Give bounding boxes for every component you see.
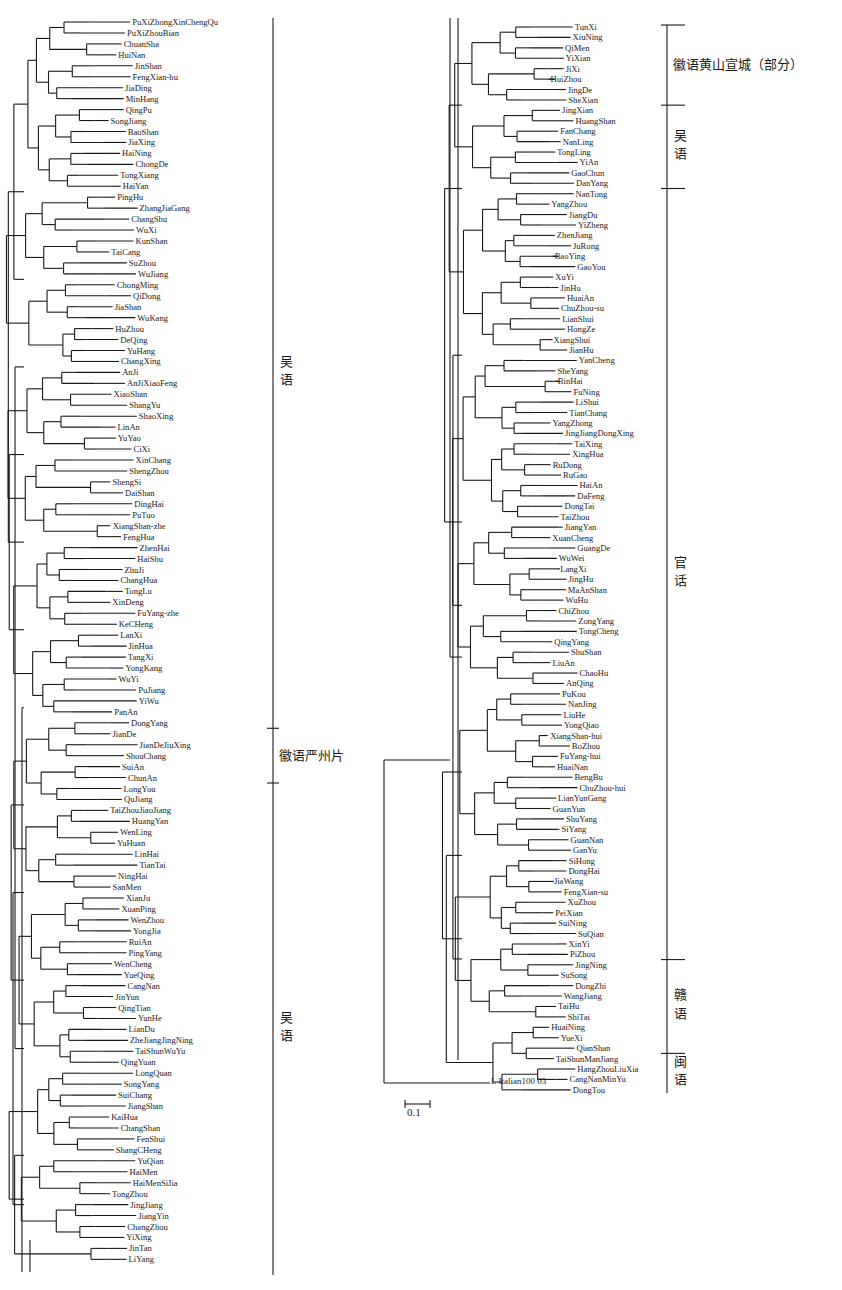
leaf-label: TongXiang: [120, 170, 159, 180]
scale-bar-label: 0.1: [407, 1106, 421, 1118]
leaf-label: YongJia: [133, 926, 161, 936]
leaf-label: SanMen: [113, 882, 142, 892]
leaf-label: HaiAn: [580, 480, 604, 490]
leaf-label: FenShui: [136, 1134, 165, 1144]
leaf-label: GuangDe: [577, 543, 610, 553]
leaf-label: YangZhong: [552, 418, 593, 428]
leaf-label: JiaXing: [128, 137, 155, 147]
leaf-label: HuaiNan: [557, 762, 589, 772]
leaf-label: SuZhou: [129, 258, 157, 268]
leaf-label: QingTian: [118, 1003, 151, 1013]
leaf-label: SuiAn: [122, 762, 145, 772]
clade-group-label: 吴语: [279, 1009, 293, 1045]
leaf-label: YiWu: [139, 696, 160, 706]
leaf-label: LianShui: [562, 314, 594, 324]
leaf-label: YuHang: [127, 346, 156, 356]
leaf-label: DeQing: [120, 335, 148, 345]
leaf-label: JianHu: [569, 345, 594, 355]
leaf-label: JingDe: [568, 85, 593, 95]
leaf-label: LianDu: [129, 1024, 156, 1034]
leaf-label: DongHai: [568, 866, 600, 876]
leaf-label: KeCHeng: [119, 619, 154, 629]
leaf-label: XiangShui: [553, 335, 590, 345]
leaf-label: GuanNan: [570, 835, 604, 845]
leaf-label: HuZhou: [115, 324, 144, 334]
leaf-label: JiaDing: [125, 83, 152, 93]
leaf-label: ShangCHeng: [116, 1145, 163, 1155]
leaf-label: LianYunGang: [558, 793, 607, 803]
leaf-label: XinYi: [569, 939, 591, 949]
leaf-label: KaiHua: [111, 1112, 138, 1122]
leaf-label: ShuShan: [571, 647, 602, 657]
leaf-label: TaiZhou: [561, 512, 591, 522]
leaf-label: YiXian: [566, 53, 592, 63]
leaf-label: XiaoShan: [113, 389, 148, 399]
leaf-label: HuangYan: [132, 816, 169, 826]
leaf-label: HangZhouLiuXia: [577, 1064, 638, 1074]
left-tree-leaf-labels: PuXiZhongXinChengQuPuXiZhouBianChuanShaH…: [110, 17, 219, 1264]
leaf-label: FengXian-hu: [133, 72, 179, 82]
left-tree-branches: [6, 22, 137, 1272]
leaf-label: SuiChang: [118, 1090, 153, 1100]
leaf-label: WuYi: [119, 674, 140, 684]
leaf-label: ChongDe: [135, 159, 168, 169]
leaf-label: TianChang: [569, 408, 608, 418]
leaf-label: ShaoXing: [139, 411, 174, 421]
leaf-label: SuQian: [578, 929, 604, 939]
leaf-label: DanYang: [576, 178, 609, 188]
leaf-label: DaFeng: [577, 491, 605, 501]
leaf-label: XuanPing: [121, 904, 156, 914]
leaf-label: TongCheng: [579, 626, 620, 636]
leaf-label: PeiXian: [555, 908, 583, 918]
leaf-label: ShangYu: [129, 400, 161, 410]
leaf-label: XiangShan-zhe: [113, 521, 166, 531]
leaf-label: QingPu: [126, 105, 153, 115]
leaf-label: SongJiang: [111, 116, 148, 126]
leaf-label: FuYang-hui: [560, 751, 601, 761]
leaf-label: LongYou: [123, 784, 156, 794]
leaf-label: ChunAn: [128, 773, 158, 783]
leaf-label: AnQing: [566, 678, 594, 688]
leaf-label: PingHu: [117, 192, 144, 202]
leaf-label: TaiCang: [111, 247, 141, 257]
leaf-label: SiHong: [569, 856, 596, 866]
leaf-label: HuangShan: [575, 116, 616, 126]
leaf-label: JiaShan: [115, 302, 142, 312]
leaf-label: HaiShu: [137, 554, 163, 564]
leaf-label: LinHai: [135, 849, 160, 859]
leaf-label: GuanYun: [553, 804, 586, 814]
leaf-label: TunXi: [575, 22, 598, 32]
leaf-label: JiangDu: [569, 210, 598, 220]
leaf-label: HuiZhou: [551, 74, 583, 84]
leaf-label: JianDeJiuXing: [140, 740, 192, 750]
outgroup-label: L Italian100 03: [491, 1076, 546, 1086]
leaf-label: PuTuo: [132, 510, 155, 520]
leaf-label: DaiShan: [125, 488, 155, 498]
leaf-label: SuiNing: [558, 918, 587, 928]
leaf-label: LinAn: [117, 422, 140, 432]
leaf-label: CangNanMinYu: [569, 1074, 626, 1084]
leaf-label: WuKang: [137, 313, 168, 323]
leaf-label: YiXing: [126, 1232, 152, 1242]
leaf-label: ChangShu: [131, 214, 168, 224]
leaf-label: JingXian: [562, 105, 594, 115]
leaf-label: TangXi: [128, 652, 154, 662]
leaf-label: JiangYan: [565, 522, 597, 532]
leaf-label: BoZhou: [572, 741, 601, 751]
leaf-label: ZhuJi: [124, 565, 144, 575]
leaf-label: JiangYin: [138, 1211, 169, 1221]
leaf-label: LiYang: [129, 1254, 155, 1264]
leaf-label: JingJiangDongXing: [565, 428, 634, 438]
leaf-label: YiZheng: [578, 220, 609, 230]
leaf-label: ChangZhou: [127, 1222, 168, 1232]
leaf-label: WenCheng: [114, 959, 153, 969]
leaf-label: NanLing: [563, 137, 594, 147]
leaf-label: LiuHe: [563, 710, 585, 720]
leaf-label: DongZhi: [575, 981, 607, 991]
leaf-label: LangXi: [560, 564, 587, 574]
leaf-label: PuXiZhouBian: [127, 28, 180, 38]
leaf-label: JiXi: [566, 64, 581, 74]
leaf-label: JinYun: [115, 992, 140, 1002]
leaf-label: JinTan: [129, 1243, 152, 1253]
leaf-label: WuHu: [565, 595, 588, 605]
